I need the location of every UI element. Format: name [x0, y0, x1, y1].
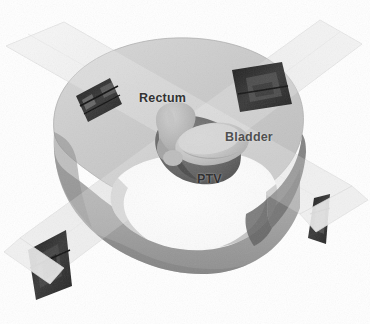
- label-bladder: Bladder: [225, 130, 273, 144]
- radiotherapy-3d-view: Rectum Bladder PTV: [0, 0, 370, 324]
- label-rectum: Rectum: [139, 91, 186, 105]
- label-ptv: PTV: [197, 172, 222, 186]
- beam-layer-front: [0, 0, 370, 324]
- beam-lower-right: [300, 186, 368, 232]
- beam-lower-left: [4, 238, 64, 284]
